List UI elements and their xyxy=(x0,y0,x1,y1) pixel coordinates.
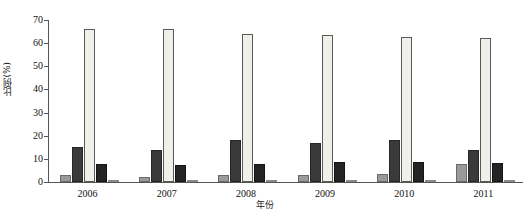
y-tick: 60 xyxy=(48,43,52,44)
x-axis-line xyxy=(48,182,523,183)
y-tick-mark xyxy=(44,136,48,137)
y-tick-label: 0 xyxy=(21,176,43,187)
bar xyxy=(72,147,83,182)
bar-chart: 比例(%) 010203040506070 200620072008200920… xyxy=(0,0,529,217)
bar xyxy=(492,163,503,182)
bar xyxy=(108,180,119,182)
y-tick: 20 xyxy=(48,136,52,137)
bar xyxy=(298,175,309,182)
bar xyxy=(480,38,491,182)
bar-group xyxy=(377,20,436,182)
y-tick-label: 40 xyxy=(21,83,43,94)
y-tick: 10 xyxy=(48,159,52,160)
y-tick-label: 70 xyxy=(21,14,43,25)
bar xyxy=(413,162,424,182)
bar xyxy=(254,164,265,183)
bar xyxy=(96,164,107,182)
y-tick: 70 xyxy=(48,20,52,21)
bar xyxy=(84,29,95,182)
y-tick-mark xyxy=(44,20,48,21)
bar xyxy=(389,140,400,182)
bar-group xyxy=(60,20,119,182)
y-tick: 40 xyxy=(48,89,52,90)
bar xyxy=(425,180,436,182)
bar xyxy=(163,29,174,182)
y-tick-label: 20 xyxy=(21,130,43,141)
bar-group xyxy=(218,20,277,182)
plot-area: 010203040506070 200620072008200920102011 xyxy=(48,20,523,183)
bar xyxy=(377,174,388,182)
bar xyxy=(230,140,241,182)
bar xyxy=(310,143,321,182)
y-tick-label: 10 xyxy=(21,153,43,164)
bar xyxy=(218,175,229,182)
bar-group xyxy=(139,20,198,182)
y-tick-label: 30 xyxy=(21,107,43,118)
y-tick-mark xyxy=(44,89,48,90)
bar xyxy=(468,150,479,182)
y-tick: 50 xyxy=(48,66,52,67)
bar-group xyxy=(298,20,357,182)
bar xyxy=(151,150,162,182)
bar xyxy=(346,180,357,182)
y-tick-mark xyxy=(44,66,48,67)
bar xyxy=(175,165,186,182)
y-tick-label: 60 xyxy=(21,37,43,48)
bar xyxy=(322,35,333,182)
bar xyxy=(401,37,412,182)
y-tick-mark xyxy=(44,113,48,114)
bar xyxy=(334,162,345,182)
x-axis-label: 年份 xyxy=(0,198,529,211)
y-tick-label: 50 xyxy=(21,60,43,71)
bar xyxy=(242,34,253,182)
bar xyxy=(60,175,71,182)
y-tick: 30 xyxy=(48,113,52,114)
bar xyxy=(456,164,467,182)
y-tick-mark xyxy=(44,182,48,183)
y-axis-label: 比例(%) xyxy=(2,62,16,96)
y-tick: 0 xyxy=(48,182,52,183)
y-tick-mark xyxy=(44,159,48,160)
bar-group xyxy=(456,20,515,182)
bar xyxy=(187,180,198,182)
bar xyxy=(139,177,150,182)
bar xyxy=(504,180,515,182)
y-tick-mark xyxy=(44,43,48,44)
bar xyxy=(266,180,277,182)
